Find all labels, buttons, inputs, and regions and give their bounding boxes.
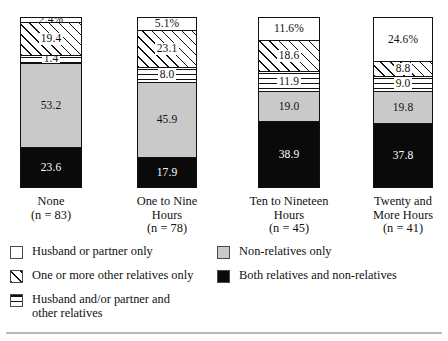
segment-value: 19.8 xyxy=(393,102,414,114)
plot-area: 2.4% 19.4 1.4 53.2 23.6 5.1% xyxy=(0,0,448,192)
bar-group-ten-to-nineteen-hours[interactable]: 11.6% 18.6 11.9 19.0 38.9 xyxy=(258,17,320,188)
segment-husband-and-other-relatives[interactable]: 8.0 xyxy=(138,67,196,82)
legend-label: Both relatives and non-relatives xyxy=(239,269,397,283)
segment-value: 5.1% xyxy=(152,18,182,30)
x-axis-label-ten-to-nineteen-hours: Ten to Nineteen Hours (n = 45) xyxy=(237,195,341,236)
segment-other-relatives-only[interactable]: 19.4 xyxy=(21,22,81,55)
segment-husband-or-partner-only[interactable]: 5.1% xyxy=(138,18,196,30)
segment-value: 24.6% xyxy=(385,34,421,46)
bar-group-twenty-and-more-hours[interactable]: 24.6% 8.8 9.0 19.8 37.8 xyxy=(373,17,433,188)
bar-group-one-to-nine-hours[interactable]: 5.1% 23.1 8.0 45.9 17.9 xyxy=(137,17,197,188)
x-axis-label-one-to-nine-hours: One to Nine Hours (n = 78) xyxy=(122,195,212,236)
segment-value: 53.2 xyxy=(41,100,62,112)
legend-label-line: Husband and/or partner and xyxy=(32,293,170,307)
legend-label: Husband and/or partner and other relativ… xyxy=(32,293,170,321)
white-swatch-icon xyxy=(10,246,23,259)
legend-label: Husband or partner only xyxy=(32,245,153,259)
segment-other-relatives-only[interactable]: 18.6 xyxy=(259,40,319,71)
x-axis-label-line: Hours xyxy=(237,209,341,223)
gray-swatch-icon xyxy=(217,246,230,259)
segment-value: 18.6 xyxy=(277,50,302,62)
legend-label: One or more other relatives only xyxy=(32,269,193,283)
x-axis-label-none: None (n = 83) xyxy=(11,195,91,222)
legend-item-both-relatives-and-non-relatives[interactable]: Both relatives and non-relatives xyxy=(217,269,397,283)
segment-husband-or-partner-only[interactable]: 11.6% xyxy=(259,18,319,40)
x-axis-label-line: (n = 83) xyxy=(11,209,91,223)
segment-value: 1.4 xyxy=(42,55,61,63)
segment-non-relatives-only[interactable]: 19.8 xyxy=(374,91,432,123)
x-axis-label-line: More Hours xyxy=(356,209,448,223)
bottom-divider xyxy=(6,332,442,334)
diagonal-hatch-swatch-icon xyxy=(10,270,23,283)
legend-item-non-relatives-only[interactable]: Non-relatives only xyxy=(217,245,332,259)
segment-husband-or-partner-only[interactable]: 24.6% xyxy=(374,18,432,61)
segment-value: 38.9 xyxy=(279,149,300,161)
x-axis-label-line: (n = 45) xyxy=(237,222,341,236)
chart-legend: Husband or partner only One or more othe… xyxy=(0,243,448,321)
segment-value: 9.0 xyxy=(394,78,413,90)
x-axis-label-line: Twenty and xyxy=(356,195,448,209)
legend-item-other-relatives-only[interactable]: One or more other relatives only xyxy=(10,269,193,283)
stacked-bar-chart: 2.4% 19.4 1.4 53.2 23.6 5.1% xyxy=(0,0,448,341)
black-swatch-icon xyxy=(217,270,230,283)
stacked-bar-one-to-nine-hours: 5.1% 23.1 8.0 45.9 17.9 xyxy=(137,17,197,188)
segment-value: 23.1 xyxy=(155,43,180,55)
segment-both-relatives-and-non-relatives[interactable]: 17.9 xyxy=(138,157,196,187)
segment-non-relatives-only[interactable]: 19.0 xyxy=(259,91,319,121)
x-axis-label-line: Hours xyxy=(122,209,212,223)
segment-husband-and-other-relatives[interactable]: 1.4 xyxy=(21,55,81,63)
x-axis-label-line: (n = 78) xyxy=(122,222,212,236)
segment-both-relatives-and-non-relatives[interactable]: 37.8 xyxy=(374,123,432,187)
segment-value: 17.9 xyxy=(157,167,178,179)
segment-value: 8.8 xyxy=(394,63,413,75)
segment-value: 37.8 xyxy=(393,150,414,162)
segment-both-relatives-and-non-relatives[interactable]: 23.6 xyxy=(21,147,81,187)
x-axis-labels: None (n = 83) One to Nine Hours (n = 78)… xyxy=(0,192,448,240)
stacked-bar-ten-to-nineteen-hours: 11.6% 18.6 11.9 19.0 38.9 xyxy=(258,17,320,188)
bar-group-none[interactable]: 2.4% 19.4 1.4 53.2 23.6 xyxy=(20,17,82,188)
segment-value: 23.6 xyxy=(41,162,62,174)
segment-other-relatives-only[interactable]: 8.8 xyxy=(374,61,432,76)
segment-other-relatives-only[interactable]: 23.1 xyxy=(138,30,196,67)
segment-value: 8.0 xyxy=(158,69,177,81)
x-axis-label-line: Ten to Nineteen xyxy=(237,195,341,209)
segment-value: 19.0 xyxy=(279,101,300,113)
segment-value: 45.9 xyxy=(157,114,178,126)
segment-value: 11.6% xyxy=(271,23,307,35)
legend-label: Non-relatives only xyxy=(239,245,332,259)
stacked-bar-twenty-and-more-hours: 24.6% 8.8 9.0 19.8 37.8 xyxy=(373,17,433,188)
x-axis-label-line: (n = 41) xyxy=(356,222,448,236)
horizontal-lines-swatch-icon xyxy=(10,294,23,307)
legend-item-husband-or-partner-only[interactable]: Husband or partner only xyxy=(10,245,153,259)
legend-item-husband-and-other-relatives[interactable]: Husband and/or partner and other relativ… xyxy=(10,293,170,321)
x-axis-label-twenty-and-more-hours: Twenty and More Hours (n = 41) xyxy=(356,195,448,236)
segment-non-relatives-only[interactable]: 53.2 xyxy=(21,63,81,148)
segment-value: 11.9 xyxy=(277,76,301,88)
segment-value: 19.4 xyxy=(39,33,64,45)
legend-label-line: other relatives xyxy=(32,307,170,321)
segment-both-relatives-and-non-relatives[interactable]: 38.9 xyxy=(259,121,319,187)
segment-husband-and-other-relatives[interactable]: 11.9 xyxy=(259,71,319,90)
x-axis-label-line: One to Nine xyxy=(122,195,212,209)
stacked-bar-none: 2.4% 19.4 1.4 53.2 23.6 xyxy=(20,17,82,188)
segment-husband-and-other-relatives[interactable]: 9.0 xyxy=(374,76,432,91)
segment-non-relatives-only[interactable]: 45.9 xyxy=(138,82,196,157)
x-axis-label-line: None xyxy=(11,195,91,209)
segment-value: 2.4% xyxy=(36,18,66,22)
